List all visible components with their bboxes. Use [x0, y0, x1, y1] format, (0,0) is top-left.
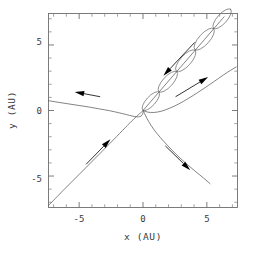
x-tick-label-neg5: -5: [74, 214, 85, 224]
y-tick-label-neg5: -5: [31, 174, 42, 184]
x-axis-title: x (AU): [124, 231, 162, 242]
y-axis-title: y (AU): [6, 91, 17, 129]
y-tick-label-5: 5: [37, 37, 42, 47]
x-tick-label-5: 5: [204, 214, 209, 224]
y-tick-label-0: 0: [37, 106, 42, 116]
trajectory-plot-figure: -5 0 5 5 0 -5 x (AU) y (AU): [0, 0, 257, 255]
x-tick-label-0: 0: [140, 214, 145, 224]
